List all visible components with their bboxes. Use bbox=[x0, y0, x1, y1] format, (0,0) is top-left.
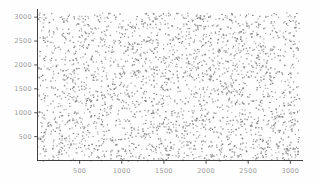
data-point bbox=[226, 123, 228, 125]
data-point bbox=[45, 79, 46, 81]
data-point bbox=[260, 139, 262, 141]
data-point bbox=[85, 38, 87, 39]
data-point bbox=[101, 86, 102, 87]
data-point bbox=[194, 86, 196, 87]
data-point bbox=[81, 121, 83, 123]
data-point bbox=[110, 154, 112, 156]
data-point bbox=[229, 19, 230, 21]
data-point bbox=[119, 121, 121, 122]
data-point bbox=[255, 76, 257, 78]
data-point bbox=[186, 125, 188, 126]
data-point bbox=[96, 91, 97, 93]
data-point bbox=[231, 87, 233, 88]
data-point bbox=[267, 147, 269, 148]
data-point bbox=[294, 148, 296, 150]
data-point bbox=[231, 85, 233, 87]
data-point bbox=[242, 109, 243, 110]
data-point bbox=[132, 36, 133, 37]
data-point bbox=[239, 84, 240, 85]
data-point bbox=[59, 46, 60, 48]
data-point bbox=[196, 29, 198, 31]
data-point bbox=[244, 43, 246, 44]
data-point bbox=[67, 33, 68, 34]
data-point bbox=[50, 103, 51, 105]
data-point bbox=[282, 124, 284, 125]
data-point bbox=[134, 104, 135, 106]
data-point bbox=[166, 15, 167, 16]
data-point bbox=[280, 97, 281, 99]
data-point bbox=[163, 13, 165, 15]
data-point bbox=[250, 129, 252, 131]
data-point bbox=[221, 58, 222, 60]
data-point bbox=[166, 132, 168, 134]
data-point bbox=[206, 155, 207, 156]
data-point bbox=[52, 77, 53, 79]
data-point bbox=[211, 59, 212, 61]
data-point bbox=[79, 36, 80, 37]
data-point bbox=[274, 124, 275, 126]
data-point bbox=[138, 157, 140, 159]
data-point bbox=[61, 59, 63, 60]
data-point bbox=[187, 142, 188, 144]
data-point bbox=[281, 138, 283, 140]
data-point bbox=[295, 120, 296, 122]
data-point bbox=[173, 37, 174, 38]
data-point bbox=[39, 51, 41, 52]
data-point bbox=[209, 121, 211, 123]
data-point bbox=[112, 137, 114, 138]
data-point bbox=[294, 16, 296, 17]
data-point bbox=[182, 36, 184, 37]
data-point bbox=[152, 146, 153, 147]
data-point bbox=[260, 106, 262, 107]
data-point bbox=[200, 128, 201, 129]
data-point bbox=[62, 120, 64, 121]
data-point bbox=[140, 154, 142, 155]
data-point bbox=[38, 115, 39, 117]
data-point bbox=[283, 103, 285, 104]
data-point bbox=[168, 126, 169, 128]
data-point bbox=[119, 13, 121, 14]
data-point bbox=[97, 100, 99, 101]
data-point bbox=[258, 45, 259, 47]
data-point bbox=[110, 60, 111, 62]
data-point bbox=[291, 122, 293, 123]
data-point bbox=[178, 157, 179, 158]
data-point bbox=[189, 68, 190, 69]
data-point bbox=[210, 154, 211, 155]
data-point bbox=[241, 96, 242, 97]
x-tick-label: 3000 bbox=[281, 167, 299, 175]
data-point bbox=[99, 54, 100, 55]
data-point bbox=[242, 92, 243, 93]
data-point bbox=[117, 98, 119, 100]
data-point bbox=[52, 66, 53, 67]
data-point bbox=[135, 147, 137, 148]
data-point bbox=[79, 102, 80, 103]
data-point bbox=[236, 102, 238, 104]
data-point bbox=[94, 115, 96, 117]
data-point bbox=[138, 104, 139, 106]
data-point bbox=[275, 152, 276, 153]
data-point bbox=[66, 20, 68, 21]
data-point bbox=[263, 119, 265, 121]
data-point bbox=[217, 61, 219, 62]
data-point bbox=[218, 93, 220, 95]
data-point bbox=[274, 69, 275, 70]
data-point bbox=[269, 95, 270, 97]
data-point bbox=[151, 150, 152, 151]
data-point bbox=[220, 28, 222, 30]
data-point bbox=[97, 149, 98, 150]
data-point bbox=[178, 34, 179, 36]
data-point bbox=[222, 117, 224, 119]
data-point bbox=[284, 149, 286, 150]
data-point bbox=[274, 127, 275, 128]
data-point bbox=[147, 25, 148, 26]
data-point bbox=[205, 109, 206, 111]
data-point bbox=[139, 44, 140, 46]
data-point bbox=[205, 42, 207, 43]
data-point bbox=[225, 84, 227, 86]
data-point bbox=[173, 74, 175, 76]
data-point bbox=[151, 69, 153, 70]
data-point bbox=[255, 155, 256, 156]
data-point bbox=[282, 74, 283, 76]
data-point bbox=[106, 112, 108, 114]
